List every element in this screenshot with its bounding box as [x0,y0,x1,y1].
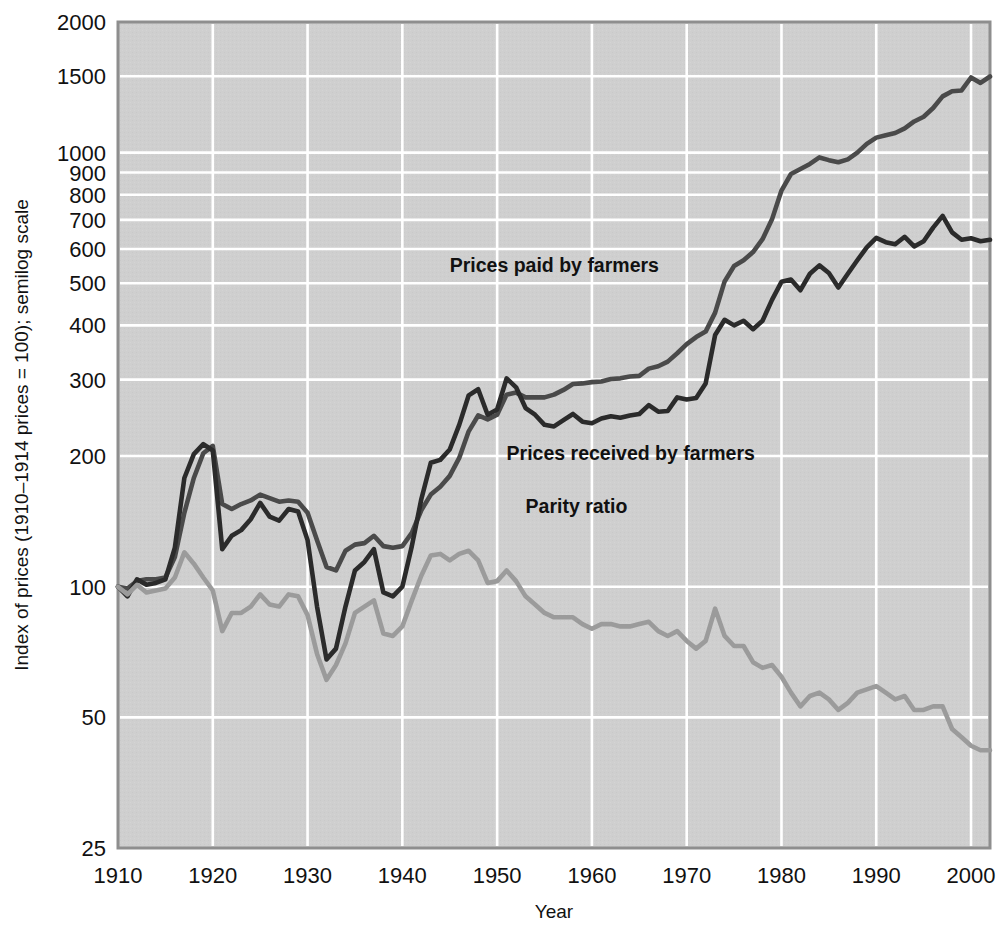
x-tick-label: 1950 [473,863,522,888]
y-tick-label: 1500 [57,64,106,89]
x-axis-tick-labels: 1910192019301940195019601970198019902000 [94,863,996,888]
y-tick-label: 2000 [57,10,106,35]
y-tick-label: 50 [82,705,106,730]
chart-canvas: 2000150010009008007006005004003002001005… [0,0,996,932]
y-tick-label: 25 [82,836,106,861]
plot-background [118,22,990,848]
chart-figure: 2000150010009008007006005004003002001005… [0,0,996,932]
x-tick-label: 1970 [662,863,711,888]
y-tick-label: 400 [69,313,106,338]
y-axis-tick-labels: 2000150010009008007006005004003002001005… [57,10,106,861]
series-label-prices-paid-by-farmers: Prices paid by farmers [450,254,659,276]
x-tick-label: 1930 [283,863,332,888]
x-tick-label: 1920 [188,863,237,888]
x-axis-title: Year [535,901,574,922]
y-tick-label: 600 [69,237,106,262]
series-label-parity-ratio: Parity ratio [526,495,628,517]
x-tick-label: 1940 [378,863,427,888]
y-tick-label: 500 [69,271,106,296]
x-tick-label: 1990 [852,863,901,888]
y-tick-label: 700 [69,208,106,233]
y-tick-label: 800 [69,183,106,208]
x-tick-label: 2000 [947,863,996,888]
x-tick-label: 1980 [757,863,806,888]
y-axis-title: Index of prices (1910–1914 prices = 100)… [11,199,32,671]
y-tick-label: 100 [69,575,106,600]
y-tick-label: 300 [69,368,106,393]
series-label-prices-received-by-farmers: Prices received by farmers [507,442,755,464]
y-tick-label: 200 [69,444,106,469]
x-tick-label: 1910 [94,863,143,888]
x-tick-label: 1960 [567,863,616,888]
